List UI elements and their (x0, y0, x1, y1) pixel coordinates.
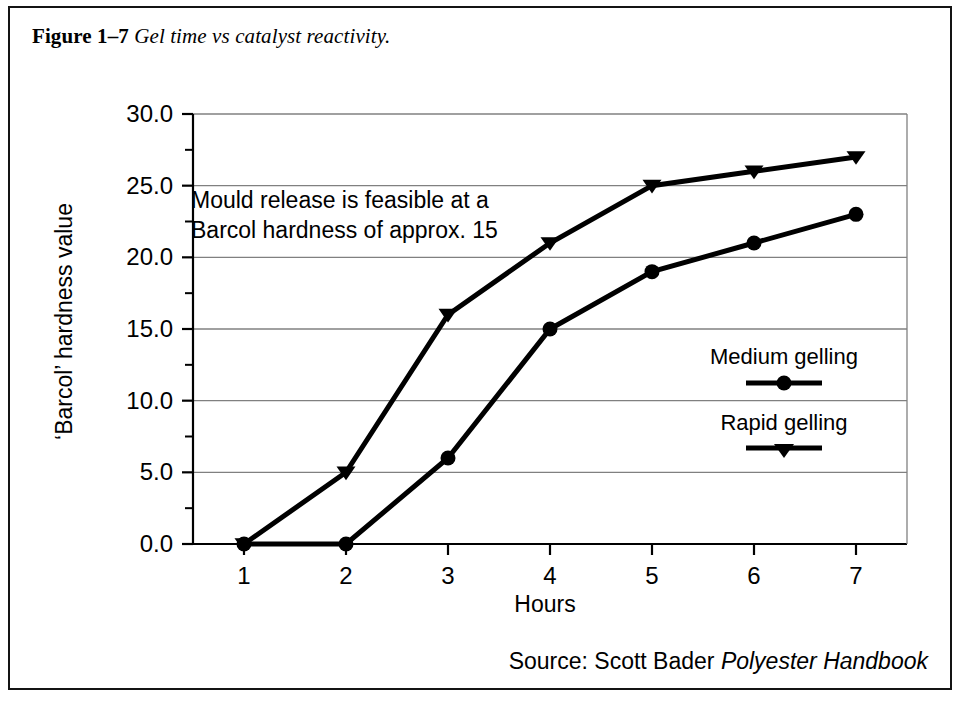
y-tick-label: 25.0 (126, 172, 173, 199)
x-axis-tick-labels: 1234567 (237, 562, 862, 589)
legend-marker-circle-icon (710, 372, 858, 398)
legend-label-medium-gelling: Medium gelling (710, 344, 858, 370)
x-tick-label: 6 (747, 562, 760, 589)
y-tick-label: 0.0 (140, 530, 173, 557)
source-title: Polyester Handbook (721, 648, 928, 674)
x-tick-label: 1 (237, 562, 250, 589)
y-axis-title: ‘Barcol’ hardness value (51, 172, 78, 472)
y-tick-label: 20.0 (126, 243, 173, 270)
source-line: Source: Scott Bader Polyester Handbook (10, 648, 928, 675)
legend-entry-medium-gelling: Medium gelling (710, 344, 858, 398)
legend-label-rapid-gelling: Rapid gelling (710, 410, 858, 436)
data-point-marker-circle (339, 537, 354, 552)
x-tick-label: 7 (849, 562, 862, 589)
x-tick-label: 2 (339, 562, 352, 589)
chart-region: 0.05.010.015.020.025.030.0 1234567 ‘Barc… (10, 8, 954, 692)
data-point-marker-circle (747, 236, 762, 251)
figure-frame: Figure 1–7 Gel time vs catalyst reactivi… (8, 6, 952, 690)
y-tick-label: 5.0 (140, 458, 173, 485)
data-point-marker-circle (441, 451, 456, 466)
plot-annotation: Mould release is feasible at a Barcol ha… (191, 185, 498, 245)
chart-legend: Medium gelling Rapid gelling (710, 344, 858, 476)
data-point-marker-circle (645, 264, 660, 279)
y-tick-label: 30.0 (126, 100, 173, 127)
x-tick-label: 4 (543, 562, 556, 589)
x-axis-title: Hours (180, 591, 910, 618)
source-prefix: Source: Scott Bader (509, 648, 715, 674)
data-point-marker-circle (543, 322, 558, 337)
annotation-line-1: Mould release is feasible at a (191, 185, 498, 215)
y-tick-label: 15.0 (126, 315, 173, 342)
legend-entry-rapid-gelling: Rapid gelling (710, 410, 858, 464)
legend-marker-triangle-down-icon (710, 438, 858, 464)
data-point-marker-circle (849, 207, 864, 222)
x-tick-label: 3 (441, 562, 454, 589)
annotation-line-2: Barcol hardness of approx. 15 (191, 215, 498, 245)
y-tick-label: 10.0 (126, 387, 173, 414)
y-axis-major-ticks (182, 114, 193, 544)
y-axis-tick-labels: 0.05.010.015.020.025.030.0 (126, 100, 173, 557)
x-tick-label: 5 (645, 562, 658, 589)
